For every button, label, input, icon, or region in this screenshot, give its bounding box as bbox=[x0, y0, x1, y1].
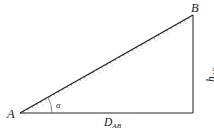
label-horizontal-distance: DAB bbox=[104, 117, 121, 129]
label-vertical-height-subscript: AB bbox=[211, 67, 214, 76]
figure-canvas: A B α DAB hAB bbox=[0, 0, 214, 135]
label-vertex-b: B bbox=[191, 2, 199, 15]
label-vertex-a: A bbox=[7, 108, 15, 121]
triangle-diagram-svg bbox=[0, 0, 214, 135]
label-angle-alpha: α bbox=[56, 101, 60, 110]
label-horizontal-distance-subscript: AB bbox=[112, 122, 121, 130]
hypotenuse-hatching bbox=[0, 0, 214, 135]
label-vertical-height-base: h bbox=[205, 76, 214, 82]
label-vertical-height: hAB bbox=[206, 67, 214, 82]
hypotenuse-line-AB bbox=[20, 15, 193, 113]
